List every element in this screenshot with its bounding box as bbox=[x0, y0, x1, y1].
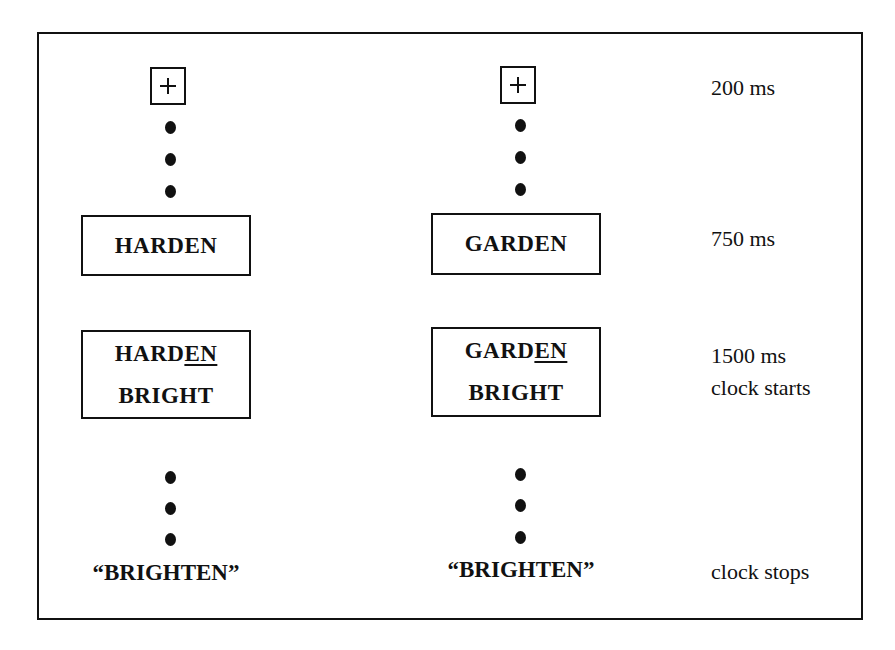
ellipsis-dot bbox=[165, 533, 176, 546]
timing-label-clock-stops: clock stops bbox=[711, 555, 809, 588]
response-left: “BRIGHTEN” bbox=[56, 560, 276, 586]
ellipsis-dot bbox=[165, 471, 176, 484]
ellipsis-dot bbox=[165, 185, 176, 198]
target-word-bottom-right: BRIGHT bbox=[468, 372, 563, 414]
timing-label-prime: 750 ms bbox=[711, 222, 775, 255]
timing-label-fixation: 200 ms bbox=[711, 71, 775, 104]
ellipsis-dot bbox=[515, 531, 526, 544]
target-word-stem: GARD bbox=[465, 338, 535, 363]
ellipsis-dot bbox=[515, 499, 526, 512]
target-word-stem: HARD bbox=[115, 341, 185, 366]
target-word-bottom-left: BRIGHT bbox=[118, 375, 213, 417]
target-word-underlined-suffix: EN bbox=[534, 338, 567, 363]
ellipsis-dot bbox=[515, 119, 526, 132]
fixation-cross-box-left bbox=[150, 67, 186, 105]
target-box-right: GARDEN BRIGHT bbox=[431, 327, 601, 417]
timing-label-target-duration: 1500 ms bbox=[711, 339, 786, 372]
ellipsis-dot bbox=[515, 183, 526, 196]
ellipsis-dot bbox=[165, 502, 176, 515]
plus-icon-vertical bbox=[517, 77, 519, 93]
prime-word-left: HARDEN bbox=[115, 225, 218, 267]
ellipsis-dot bbox=[165, 121, 176, 134]
diagram-frame bbox=[37, 32, 863, 620]
ellipsis-dot bbox=[515, 468, 526, 481]
ellipsis-dot bbox=[165, 153, 176, 166]
target-box-left: HARDEN BRIGHT bbox=[81, 330, 251, 419]
target-word-top-left: HARDEN bbox=[115, 333, 218, 375]
target-word-top-right: GARDEN bbox=[465, 330, 568, 372]
prime-word-right: GARDEN bbox=[465, 223, 568, 265]
prime-box-right: GARDEN bbox=[431, 213, 601, 275]
target-word-underlined-suffix: EN bbox=[184, 341, 217, 366]
ellipsis-dot bbox=[515, 151, 526, 164]
timing-label-clock-starts: clock starts bbox=[711, 371, 811, 404]
response-right: “BRIGHTEN” bbox=[411, 557, 631, 583]
plus-icon-vertical bbox=[167, 78, 169, 94]
prime-box-left: HARDEN bbox=[81, 215, 251, 276]
fixation-cross-box-right bbox=[500, 66, 536, 104]
